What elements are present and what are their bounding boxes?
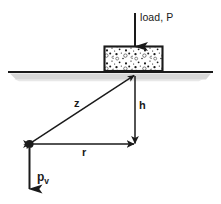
h-label: h	[139, 100, 146, 111]
load-label: load, P	[140, 12, 173, 23]
footing-block	[105, 47, 163, 72]
stress-point-node	[25, 140, 33, 148]
r-label: r	[82, 147, 86, 158]
diagram-svg	[0, 0, 221, 204]
ground-shadow	[10, 74, 211, 82]
pv-subscript: v	[44, 176, 49, 186]
pv-label: pv	[37, 171, 49, 186]
z-dimension-line	[31, 75, 135, 143]
figure-canvas: load, P z h r pv	[0, 0, 221, 204]
z-label: z	[74, 98, 80, 109]
